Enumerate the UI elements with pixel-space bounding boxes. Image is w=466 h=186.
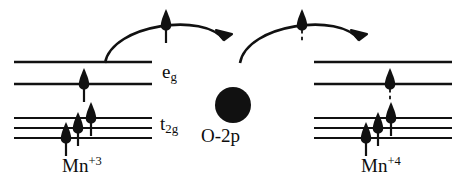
mn3-label-base: Mn — [62, 155, 88, 176]
mn4-label-sup: +4 — [387, 154, 400, 168]
right-hop-arrow — [240, 25, 367, 63]
right-t2g-electron-3 — [386, 102, 396, 136]
mn3-site-label: Mn+3 — [62, 155, 102, 175]
t2g-orbital-label: t2g — [160, 114, 178, 136]
mn4-site-label: Mn+4 — [361, 155, 401, 175]
right-hop-electron — [297, 9, 307, 42]
oxygen-orbital-label: O-2p — [201, 126, 240, 145]
oxygen-ion-circle — [215, 87, 251, 123]
left-t2g-electron-3 — [86, 102, 96, 136]
eg-orbital-label: eg — [162, 62, 177, 84]
mn4-label-base: Mn — [361, 155, 387, 176]
left-hop-arrow — [105, 25, 232, 63]
right-eg-electron — [385, 68, 395, 101]
left-eg-electron — [79, 68, 89, 102]
double-exchange-diagram: eg t2g O-2p Mn+3 Mn+4 — [0, 0, 466, 186]
left-hop-electron — [161, 9, 171, 43]
eg-label-sub: g — [170, 69, 176, 84]
right-eg-level-lower — [314, 68, 452, 101]
left-eg-level-lower — [14, 68, 152, 102]
mn3-label-sup: +3 — [88, 154, 101, 168]
left-site-levels — [14, 62, 152, 156]
right-site-levels — [314, 62, 452, 156]
t2g-label-sub: 2g — [165, 121, 178, 136]
